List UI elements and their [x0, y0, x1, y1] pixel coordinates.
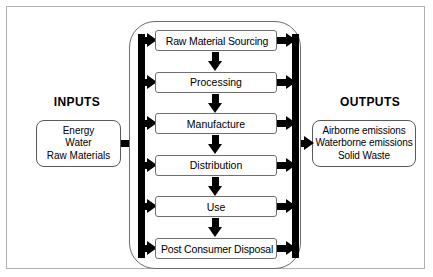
process-box-label: Processing: [190, 76, 242, 88]
outputs-item-waterborne: Waterborne emissions: [315, 137, 412, 150]
stage-emission-arrow-icon: [277, 75, 296, 90]
lifecycle-diagram: INPUTS Energy Water Raw Materials OUTPUT…: [0, 0, 433, 277]
outputs-heading: OUTPUTS: [315, 95, 425, 109]
stage-flow-arrow-icon: [208, 94, 223, 112]
process-box[interactable]: Post Consumer Disposal: [155, 238, 277, 259]
inputs-box: Energy Water Raw Materials: [36, 120, 121, 167]
process-box-label: Post Consumer Disposal: [161, 243, 273, 255]
stage-emission-arrow-icon: [277, 116, 296, 131]
inputs-item-energy: Energy: [63, 125, 95, 138]
inputs-item-raw-materials: Raw Materials: [47, 150, 110, 163]
outputs-item-airborne: Airborne emissions: [322, 125, 405, 138]
stage-emission-arrow-icon: [277, 199, 296, 214]
process-box-label: Manufacture: [187, 118, 245, 130]
process-box-label: Distribution: [190, 159, 243, 171]
process-box-label: Use: [207, 201, 226, 213]
stage-flow-arrow-icon: [208, 218, 223, 236]
inputs-item-water: Water: [65, 137, 91, 150]
stage-emission-arrow-icon: [277, 158, 296, 173]
stage-flow-arrow-icon: [208, 135, 223, 153]
input-distribution-bar: [138, 34, 145, 258]
process-box[interactable]: Processing: [155, 72, 277, 93]
stage-emission-arrow-icon: [277, 241, 296, 256]
stage-flow-arrow-icon: [208, 52, 223, 70]
stage-flow-arrow-icon: [208, 177, 223, 195]
process-box[interactable]: Raw Material Sourcing: [155, 30, 277, 51]
outputs-box: Airborne emissions Waterborne emissions …: [312, 120, 416, 167]
process-box-label: Raw Material Sourcing: [166, 35, 268, 47]
inputs-heading: INPUTS: [29, 95, 125, 109]
output-collection-bar: [292, 34, 299, 258]
process-box[interactable]: Distribution: [155, 155, 277, 176]
process-box[interactable]: Manufacture: [155, 113, 277, 134]
process-box[interactable]: Use: [155, 196, 277, 217]
stage-emission-arrow-icon: [277, 33, 296, 48]
outputs-item-solid-waste: Solid Waste: [338, 150, 390, 163]
diagram-frame: INPUTS Energy Water Raw Materials OUTPUT…: [6, 6, 425, 269]
